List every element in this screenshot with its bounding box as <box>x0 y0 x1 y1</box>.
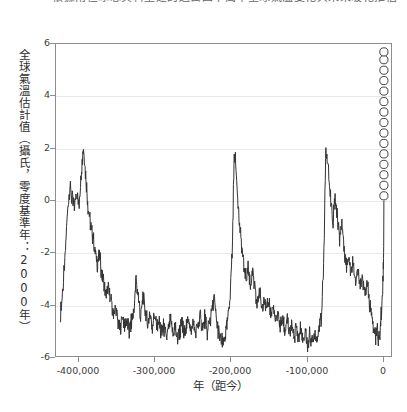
future-warming-marker <box>380 139 388 147</box>
plot-area <box>55 43 392 357</box>
x-axis-tick <box>78 357 79 362</box>
future-warming-marker <box>380 108 388 116</box>
x-axis-tick-label: -400,000 <box>43 365 113 376</box>
x-axis-title: 年（距今） <box>0 379 407 393</box>
x-axis-tick <box>230 357 231 362</box>
future-warming-marker <box>380 87 388 95</box>
x-axis-tick <box>383 357 384 362</box>
data-series-layer <box>56 44 392 357</box>
future-warming-marker <box>380 171 388 179</box>
y-axis-tick-label: 0 <box>18 195 50 205</box>
future-warming-marker <box>380 192 388 200</box>
x-axis-tick-label: -200,000 <box>195 365 265 376</box>
future-warming-marker <box>380 129 388 137</box>
y-axis-tick-label: 2 <box>18 143 50 153</box>
future-warming-marker <box>380 181 388 189</box>
x-axis-tick-label: -100,000 <box>272 365 342 376</box>
y-axis-tick-label: -2 <box>18 247 50 257</box>
future-warming-markers <box>380 48 388 200</box>
y-axis-tick-label: 4 <box>18 90 50 100</box>
x-axis-tick-label: -300,000 <box>119 365 189 376</box>
future-warming-marker <box>380 118 388 126</box>
future-warming-marker <box>380 77 388 85</box>
future-warming-marker <box>380 150 388 158</box>
future-warming-marker <box>380 66 388 74</box>
future-warming-marker <box>380 98 388 106</box>
y-axis-tick <box>50 357 55 358</box>
x-axis-tick <box>154 357 155 362</box>
future-warming-marker <box>380 160 388 168</box>
x-axis-tick-label: 0 <box>348 365 407 376</box>
y-axis-tick-label: -6 <box>18 352 50 362</box>
y-axis-tick-label: 6 <box>18 38 50 48</box>
temperature-reconstruction-chart: 全球氣溫估計值（攝氏，零度基準年：2000年） 6420-2-4-6 -400,… <box>0 0 407 412</box>
y-axis-tick-label: -4 <box>18 300 50 310</box>
x-axis-tick <box>307 357 308 362</box>
ice-core-temperature-line <box>61 148 384 352</box>
future-warming-marker <box>380 48 388 56</box>
future-warming-marker <box>380 56 388 64</box>
